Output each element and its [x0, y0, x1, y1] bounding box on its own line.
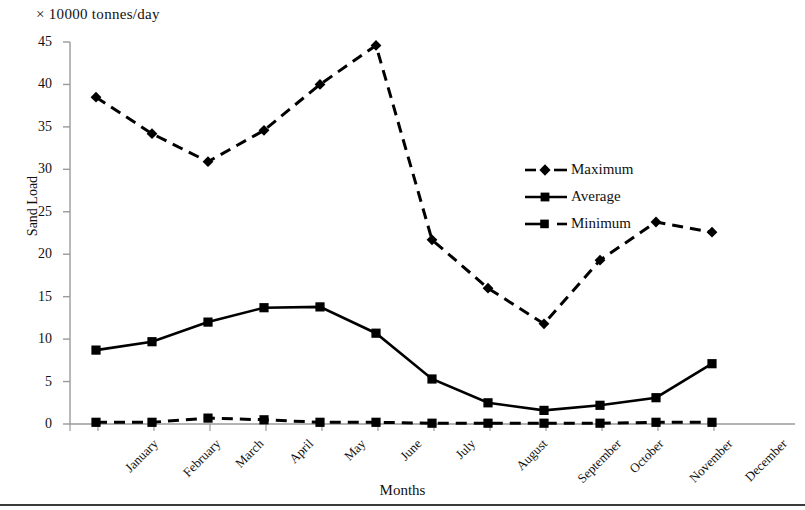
legend-item-average: Average: [524, 183, 634, 210]
series-average: [91, 302, 716, 415]
chart-legend: Maximum Average Minimum: [524, 156, 634, 237]
axes: [63, 42, 795, 431]
legend-label-average: Average: [571, 189, 621, 204]
legend-key-average: [524, 189, 568, 205]
legend-label-maximum: Maximum: [571, 162, 634, 177]
page-bottom-rule: [0, 504, 805, 506]
legend-label-minimum: Minimum: [571, 216, 631, 231]
legend-key-minimum: [524, 216, 568, 232]
legend-item-minimum: Minimum: [524, 210, 634, 237]
sand-load-line-chart: × 10000 tonnes/day Sand Load Months 0510…: [0, 0, 805, 510]
legend-key-maximum: [524, 162, 568, 178]
plot-area: [0, 0, 805, 510]
legend-item-maximum: Maximum: [524, 156, 634, 183]
series-minimum: [91, 414, 716, 428]
